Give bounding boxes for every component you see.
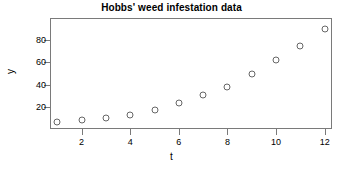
y-tick-label: 60 [36, 57, 46, 67]
x-tick-mark [325, 129, 326, 135]
data-point [297, 42, 304, 49]
data-point [151, 107, 158, 114]
data-point [175, 100, 182, 107]
x-axis-label: t [0, 151, 343, 162]
y-tick-label: 20 [36, 102, 46, 112]
x-tick-mark [82, 129, 83, 135]
x-tick-mark [130, 129, 131, 135]
y-tick-label: 40 [36, 80, 46, 90]
y-tick-label: 80 [36, 35, 46, 45]
data-point [127, 111, 134, 118]
data-point [321, 26, 328, 33]
data-point [224, 83, 231, 90]
data-point [248, 70, 255, 77]
x-tick-mark [276, 129, 277, 135]
data-point [273, 57, 280, 64]
plot-area [50, 18, 332, 129]
x-tick-mark [227, 129, 228, 135]
x-tick-label: 2 [79, 137, 84, 147]
data-point [102, 114, 109, 121]
x-tick-label: 6 [176, 137, 181, 147]
data-point [78, 117, 85, 124]
x-tick-label: 8 [225, 137, 230, 147]
x-tick-label: 4 [128, 137, 133, 147]
y-axis-label: y [5, 69, 16, 74]
data-point [54, 119, 61, 126]
x-tick-label: 12 [320, 137, 330, 147]
x-tick-mark [179, 129, 180, 135]
chart-title: Hobbs' weed infestation data [0, 2, 343, 13]
x-tick-label: 10 [271, 137, 281, 147]
data-point [200, 91, 207, 98]
chart-figure: Hobbs' weed infestation data y 20406080 … [0, 0, 343, 175]
